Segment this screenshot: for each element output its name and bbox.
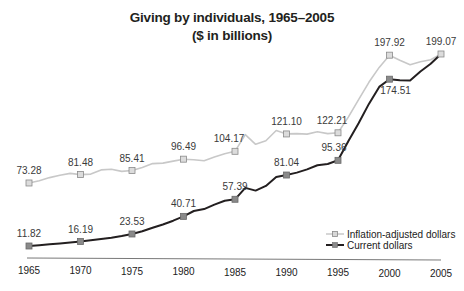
data-labels: 73.2881.4885.4196.49104.17121.10122.2119… [16,36,456,239]
x-tick-label: 1985 [224,267,247,278]
data-label: 174.51 [380,85,411,96]
data-label: 40.71 [171,198,196,209]
x-tick-label: 2000 [378,268,401,279]
legend-item-inflation-adjusted: Inflation-adjusted dollars [326,229,455,240]
data-point-marker [335,157,341,163]
data-point-marker [284,131,290,137]
data-point-marker [438,51,444,57]
data-point-marker [78,239,84,245]
data-label: 95.36 [321,142,346,153]
data-label: 197.92 [374,37,405,48]
data-point-marker [78,172,84,178]
data-point-marker [232,196,238,202]
data-label: 81.04 [274,157,299,168]
x-tick-label: 1970 [69,265,92,276]
data-label: 57.39 [222,181,247,192]
data-label: 73.28 [16,165,41,176]
legend-label-inflation: Inflation-adjusted dollars [347,229,455,240]
data-point-marker [26,180,32,186]
x-axis-ticks: 196519701975198019851990199520002005 [18,265,453,279]
series-markers [26,51,444,249]
legend-marker-inflation-icon [333,232,338,237]
data-point-marker [181,156,187,162]
data-point-marker [284,172,290,178]
line-chart: 73.2881.4885.4196.49104.17121.10122.2119… [0,0,464,291]
data-label: 121.10 [271,116,302,127]
x-tick-label: 1975 [121,266,144,277]
x-tick-label: 1995 [327,267,350,278]
data-label: 104.17 [214,133,245,144]
x-tick-label: 1980 [172,266,195,277]
data-point-marker [181,213,187,219]
data-label: 199.07 [426,36,457,47]
data-label: 96.49 [171,141,196,152]
data-point-marker [26,243,32,249]
legend-label-current: Current dollars [347,240,413,251]
data-point-marker [232,148,238,154]
data-label: 81.48 [68,157,93,168]
legend-marker-current-icon [333,243,338,248]
data-label: 23.53 [119,216,144,227]
data-point-marker [387,52,393,58]
data-point-marker [129,168,135,174]
x-axis-line [27,258,441,260]
data-label: 85.41 [119,153,144,164]
data-label: 16.19 [68,224,93,235]
data-point-marker [129,231,135,237]
data-point-marker [335,130,341,136]
data-label: 122.21 [317,115,348,126]
x-tick-label: 2005 [430,268,453,279]
x-tick-label: 1965 [18,265,41,276]
data-label: 11.82 [17,228,42,239]
legend-item-current: Current dollars [326,240,413,251]
legend: Inflation-adjusted dollars Current dolla… [326,229,455,251]
x-tick-label: 1990 [275,267,298,278]
data-point-marker [387,76,393,82]
